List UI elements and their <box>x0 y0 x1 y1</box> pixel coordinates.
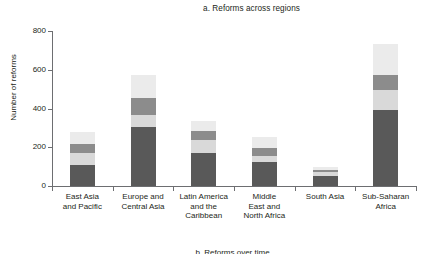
x-axis-label-6: Sub-SaharanAfrica <box>355 192 416 211</box>
bar-segment-segment-1 <box>313 176 338 186</box>
x-axis-label-line: Central Asia <box>113 202 174 212</box>
bar-segment-segment-4 <box>131 75 156 98</box>
y-tick-label: 200 <box>33 143 46 151</box>
x-axis-label-2: Europe andCentral Asia <box>113 192 174 211</box>
bar-stack <box>373 44 398 186</box>
chart-title: a. Reforms across regions <box>0 4 425 13</box>
x-axis-label-line: South Asia <box>295 192 356 202</box>
x-tick-mark <box>416 186 417 191</box>
bar-stack <box>313 167 338 186</box>
bar-series-container <box>52 31 416 187</box>
bar-segment-segment-3 <box>252 148 277 156</box>
bar-segment-segment-2 <box>191 140 216 153</box>
bar-segment-segment-3 <box>373 75 398 91</box>
bar-stack <box>131 75 156 186</box>
x-axis-label-1: East Asiaand Pacific <box>52 192 113 211</box>
x-axis-label-line: East and <box>234 202 295 212</box>
y-tick-label: 600 <box>33 66 46 74</box>
x-axis-label-line: Africa <box>355 202 416 212</box>
next-panel-caption: b. Reforms over time <box>0 248 425 254</box>
x-axis-label-line: Middle <box>234 192 295 202</box>
bar-segment-segment-4 <box>70 132 95 145</box>
bar-segment-segment-3 <box>70 144 95 153</box>
bar-segment-segment-3 <box>191 131 216 141</box>
x-axis-label-line: Caribbean <box>173 211 234 221</box>
bar-segment-segment-4 <box>252 137 277 149</box>
y-tick-label: 800 <box>33 27 46 35</box>
bar-segment-segment-3 <box>131 98 156 115</box>
x-axis-label-line: Sub-Saharan <box>355 192 416 202</box>
x-axis-label-line: North Africa <box>234 211 295 221</box>
bar-segment-segment-4 <box>373 44 398 75</box>
x-axis-label-line: and Pacific <box>52 202 113 212</box>
x-axis-label-4: MiddleEast andNorth Africa <box>234 192 295 221</box>
bar-stack <box>70 132 95 186</box>
bar-segment-segment-1 <box>252 162 277 186</box>
x-axis-label-line: East Asia <box>52 192 113 202</box>
bar-segment-segment-2 <box>70 153 95 165</box>
x-axis-label-line: and the <box>173 202 234 212</box>
bar-segment-segment-2 <box>373 90 398 110</box>
y-tick-label: 0 <box>42 182 46 190</box>
x-axis-label-3: Latin Americaand theCaribbean <box>173 192 234 221</box>
bar-segment-segment-1 <box>373 110 398 186</box>
y-tick-label: 400 <box>33 105 46 113</box>
plot-area: 0200400600800 <box>52 31 416 187</box>
x-axis-label-5: South Asia <box>295 192 356 202</box>
bar-segment-segment-4 <box>191 121 216 131</box>
bar-segment-segment-1 <box>131 127 156 186</box>
bar-stack <box>191 121 216 186</box>
y-axis-label: Number of reforms <box>9 28 18 148</box>
x-axis-label-line: Europe and <box>113 192 174 202</box>
x-axis-labels: East Asiaand PacificEurope andCentral As… <box>52 192 416 250</box>
bar-stack <box>252 137 277 186</box>
bar-segment-segment-1 <box>191 153 216 186</box>
bar-segment-segment-2 <box>131 115 156 127</box>
bar-segment-segment-1 <box>70 165 95 186</box>
x-axis-label-line: Latin America <box>173 192 234 202</box>
